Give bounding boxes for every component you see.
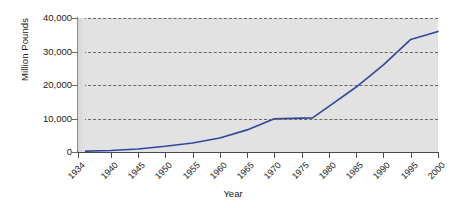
x-axis-tick	[329, 152, 330, 158]
gridline-y	[78, 18, 438, 19]
x-axis-tick	[193, 152, 194, 158]
y-axis-tick-label: 0	[26, 147, 72, 157]
y-axis-tick-label: 10,000	[26, 114, 72, 124]
x-axis-tick-label: 1985	[340, 160, 365, 185]
x-axis-tick-label: 1975	[285, 160, 310, 185]
x-axis-tick	[111, 152, 112, 158]
x-axis-title-text: Year	[223, 188, 242, 199]
x-axis-tick-label: 1940	[94, 160, 119, 185]
y-axis-tick-label: 20,000	[26, 80, 72, 90]
y-axis-tick-label: 30,000	[26, 47, 72, 57]
x-axis-tick	[411, 152, 412, 158]
x-axis-title: Year	[0, 188, 452, 199]
y-axis-tick	[72, 85, 78, 86]
x-axis-tick-label: 1945	[122, 160, 147, 185]
x-axis-tick-label: 1970	[258, 160, 283, 185]
x-axis-tick	[302, 152, 303, 158]
x-axis-tick	[274, 152, 275, 158]
plot-area	[78, 18, 438, 152]
x-axis-tick	[220, 152, 221, 158]
x-axis-tick	[165, 152, 166, 158]
y-axis-tick	[72, 119, 78, 120]
y-axis-tick	[72, 18, 78, 19]
x-axis-tick-label: 1995	[394, 160, 419, 185]
x-axis-tick	[356, 152, 357, 158]
gridline-y	[78, 52, 438, 53]
x-axis-tick-label: 1980	[313, 160, 338, 185]
x-axis-tick	[438, 152, 439, 158]
x-axis-tick-label: 2000	[422, 160, 447, 185]
gridline-y	[78, 85, 438, 86]
gridline-y	[78, 119, 438, 120]
x-axis-tick	[78, 152, 79, 158]
x-axis-tick	[138, 152, 139, 158]
y-axis-tick-label: 40,000	[26, 13, 72, 23]
line-chart: Million Pounds 010,00020,00030,00040,000…	[0, 0, 452, 208]
x-axis-tick	[383, 152, 384, 158]
x-axis-tick-label: 1990	[367, 160, 392, 185]
x-axis-tick-label: 1960	[203, 160, 228, 185]
x-axis-tick-label: 1955	[176, 160, 201, 185]
x-axis-tick-label: 1965	[231, 160, 256, 185]
x-axis-tick	[247, 152, 248, 158]
y-axis-tick	[72, 52, 78, 53]
x-axis-tick-label: 1950	[149, 160, 174, 185]
